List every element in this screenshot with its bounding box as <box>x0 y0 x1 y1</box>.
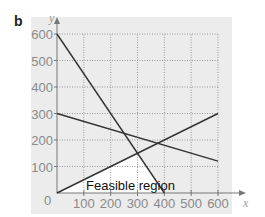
feasible-region-label: Feasible region <box>86 178 175 193</box>
chart: 1002003004005006001002003004005006000xyF… <box>0 0 265 217</box>
y-tick-label: 200 <box>31 133 53 148</box>
y-tick-label: 600 <box>31 27 53 42</box>
x-tick-label: 400 <box>153 196 175 211</box>
y-tick-label: 300 <box>31 107 53 122</box>
y-tick-label: 500 <box>31 54 53 69</box>
x-axis-label: x <box>242 196 249 210</box>
x-tick-label: 500 <box>180 196 202 211</box>
y-axis-arrow-icon <box>54 17 60 24</box>
x-tick-label: 100 <box>73 196 95 211</box>
y-tick-label: 400 <box>31 80 53 95</box>
y-axis-label: y <box>48 11 55 25</box>
x-tick-label: 300 <box>127 196 149 211</box>
origin-label: 0 <box>44 193 51 208</box>
y-tick-label: 100 <box>31 160 53 175</box>
x-tick-label: 200 <box>100 196 122 211</box>
x-tick-label: 600 <box>207 196 229 211</box>
